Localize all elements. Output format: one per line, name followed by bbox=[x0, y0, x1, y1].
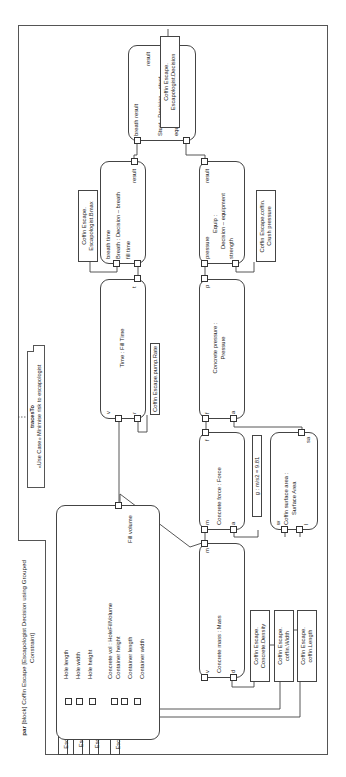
param-hole-length: Hole length bbox=[63, 650, 70, 679]
port-equip-pressure[interactable] bbox=[201, 260, 208, 267]
cwidth-line-1: Coffin Escape. bbox=[277, 627, 284, 665]
param-container-height: Container height bbox=[115, 636, 122, 679]
constraint-equip[interactable]: pressure Equip : Decision – equipment st… bbox=[199, 161, 245, 264]
port-fill-volume[interactable] bbox=[115, 502, 122, 509]
port-fill-time-r[interactable] bbox=[134, 415, 141, 422]
port-area-l[interactable] bbox=[296, 526, 303, 533]
equip-title-1: Equip : bbox=[212, 215, 219, 233]
param-mass-m: m bbox=[204, 548, 211, 553]
param-mass-v: v bbox=[204, 670, 211, 673]
constraint-fill-time[interactable]: v r t Time : Fill Time bbox=[100, 279, 146, 419]
param-breath-time: breath time bbox=[105, 230, 112, 259]
param-r: r bbox=[131, 412, 138, 414]
param-hole-height: Hole height bbox=[87, 650, 94, 679]
port-stunt-equipment[interactable] bbox=[183, 137, 190, 144]
port-hole-length[interactable] bbox=[65, 698, 72, 705]
param-hole-width: Hole width bbox=[75, 652, 82, 679]
value-concrete-density[interactable]: Coffin Escape. Concrete.Density bbox=[250, 610, 270, 682]
constraint-pressure[interactable]: f a p Concrete pressure : Pressure bbox=[199, 279, 245, 419]
density-line-2: Concrete.Density bbox=[260, 624, 267, 668]
note-stereotype: tracesTo bbox=[29, 346, 36, 487]
port-breath-result[interactable] bbox=[131, 158, 138, 165]
param-pressure-f: f bbox=[204, 412, 211, 414]
port-container-width[interactable] bbox=[134, 698, 141, 705]
param-area-sa: sa bbox=[305, 437, 312, 443]
mass-title: Concrete mass : Mass bbox=[216, 615, 223, 673]
port-mass-d[interactable] bbox=[230, 674, 237, 681]
value-coffin-length[interactable]: Coffin Escape. coffin.Length bbox=[297, 610, 317, 682]
port-pressure-f[interactable] bbox=[202, 415, 209, 422]
param-breath-result-in: breath result bbox=[133, 104, 140, 136]
param-equip-result: result bbox=[204, 169, 211, 183]
bmax-line-2: Escapologist.Bmax bbox=[88, 201, 95, 250]
value-crush-pressure[interactable]: Coffin Escape.coffin. Crush pressure bbox=[256, 190, 276, 262]
bmax-line-1: Coffin Escape. bbox=[81, 207, 88, 245]
port-breath-fill-time[interactable] bbox=[134, 260, 141, 267]
frame-title-tab: par [block] Coffin Escape [Escapologist … bbox=[18, 540, 46, 755]
param-t: t bbox=[131, 286, 138, 288]
fill-time-title: Time : Fill Time bbox=[119, 278, 126, 418]
port-fill-time-v[interactable] bbox=[115, 415, 122, 422]
param-pressure: pressure bbox=[204, 236, 211, 259]
param-container-length: Container length bbox=[127, 636, 134, 679]
param-strength: strength bbox=[228, 238, 235, 259]
port-force-m[interactable] bbox=[201, 526, 208, 533]
parametric-diagram: par [block] Coffin Escape [Escapologist … bbox=[0, 0, 346, 777]
fill-volume-title: Concrete vol : HoleFillVolume bbox=[107, 603, 114, 679]
pressure-title-2: Pressure bbox=[220, 278, 227, 418]
port-area-sa[interactable] bbox=[298, 429, 305, 436]
area-title-1: Coffin surface area : bbox=[283, 473, 290, 525]
value-gravity[interactable]: g : m/s2 = 9.81 bbox=[252, 435, 262, 517]
port-mass-m[interactable] bbox=[201, 540, 208, 547]
area-title-2: Surface Area bbox=[291, 481, 298, 515]
pressure-title-1: Concrete pressure : bbox=[212, 278, 219, 418]
param-area-l: l bbox=[303, 524, 310, 525]
param-force-a: a bbox=[230, 522, 237, 525]
port-equip-strength[interactable] bbox=[232, 260, 239, 267]
param-fill-time: fill time bbox=[125, 241, 132, 259]
param-stunt-result: result bbox=[145, 52, 152, 66]
clength-line-1: Coffin Escape. bbox=[300, 627, 307, 665]
note-fold-icon bbox=[27, 345, 34, 352]
crush-line-1: Coffin Escape.coffin. bbox=[259, 200, 266, 253]
port-force-f[interactable] bbox=[202, 429, 209, 436]
constraint-breath[interactable]: breath time Breath : Decision – breath f… bbox=[100, 161, 146, 264]
port-breath-time[interactable] bbox=[113, 260, 120, 267]
value-escapologist-bmax[interactable]: Coffin Escape. Escapologist.Bmax bbox=[78, 190, 98, 262]
port-force-a[interactable] bbox=[230, 526, 237, 533]
port-pressure-a[interactable] bbox=[230, 415, 237, 422]
cwidth-line-2: coffin.Width bbox=[284, 631, 291, 661]
port-equip-result[interactable] bbox=[201, 158, 208, 165]
decision-line-2: Escapologist.Decision bbox=[170, 54, 177, 111]
frame-keyword: par bbox=[20, 726, 27, 736]
param-v: v bbox=[105, 411, 112, 414]
param-fill-volume: Fill volume bbox=[127, 515, 134, 543]
param-pressure-p: p bbox=[204, 285, 211, 288]
value-coffin-width[interactable]: Coffin Escape. coffin.Width bbox=[274, 610, 294, 682]
port-area-w[interactable] bbox=[281, 526, 288, 533]
constraint-mass[interactable]: v Concrete mass : Mass d m bbox=[199, 543, 245, 678]
value-pump-rate[interactable]: Coffin Escape.pump.Rate bbox=[150, 343, 160, 415]
constraint-surface-area[interactable]: w Coffin surface area : Surface Area l s… bbox=[270, 432, 318, 530]
port-mass-v[interactable] bbox=[201, 674, 208, 681]
param-force-f: f bbox=[204, 439, 211, 441]
equip-title-2: Decision – equipment bbox=[220, 193, 227, 249]
port-hole-width[interactable] bbox=[76, 698, 83, 705]
port-pressure-p[interactable] bbox=[201, 275, 208, 282]
port-fill-time-t[interactable] bbox=[134, 275, 141, 282]
decision-line-1: Coffin Escape. bbox=[163, 63, 170, 101]
param-pressure-a: a bbox=[230, 411, 237, 414]
value-escapologist-decision-output[interactable]: Coffin Escape.Escapologist.Decision bbox=[160, 36, 180, 128]
port-container-length[interactable] bbox=[121, 698, 128, 705]
param-force-m: m bbox=[204, 520, 211, 525]
density-line-1: Coffin Escape. bbox=[253, 627, 260, 665]
traces-to-note[interactable]: tracesTo «Use Case» Minimise risk to esc… bbox=[27, 345, 45, 488]
port-hole-height[interactable] bbox=[89, 698, 96, 705]
clength-line-2: coffin.Length bbox=[307, 629, 314, 662]
param-container-width: Container width bbox=[139, 639, 146, 679]
port-stunt-breath[interactable] bbox=[134, 137, 141, 144]
frame-title: [block] Coffin Escape [Escapologist Deci… bbox=[20, 560, 35, 724]
force-title: Concrete force : Force bbox=[216, 467, 223, 525]
constraint-force[interactable]: m Concrete force : Force a f bbox=[199, 432, 245, 530]
port-container-height[interactable] bbox=[111, 698, 118, 705]
